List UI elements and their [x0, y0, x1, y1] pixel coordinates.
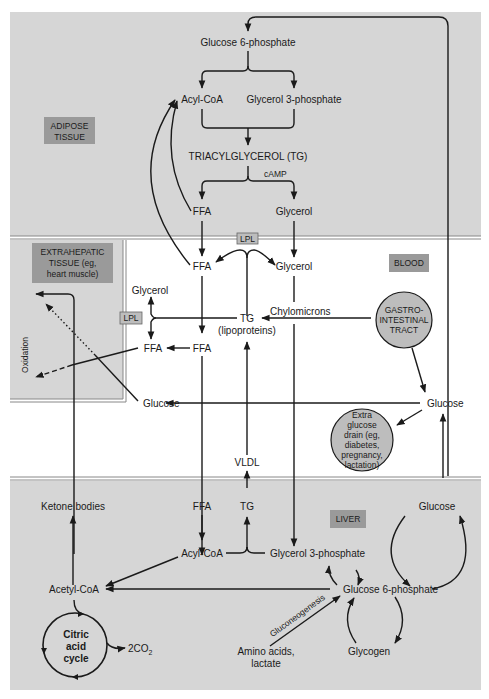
camp-label: cAMP — [264, 169, 287, 179]
drain-line3: drain (eg, — [344, 430, 380, 440]
gi-line3: TRACT — [390, 325, 418, 335]
svg-text:LIVER: LIVER — [336, 514, 361, 524]
acetyl-coa: Acetyl-CoA — [49, 584, 99, 595]
adipose-acyl-coa: Acyl-CoA — [181, 94, 223, 105]
extrahepatic-tissue-label: EXTRAHEPATIC TISSUE (eg, heart muscle) — [32, 243, 113, 283]
chylomicrons-label: Chylomicrons — [270, 306, 331, 317]
liver-tg: TG — [240, 501, 254, 512]
adipose-triacylglycerol: TRIACYLGLYCEROL (TG) — [189, 151, 308, 162]
drain-line2: glucose — [347, 420, 377, 430]
citric-line2: acid — [66, 641, 86, 652]
drain-line1: Extra — [352, 410, 372, 420]
svg-text:LPL: LPL — [123, 313, 138, 323]
blood-label: BLOOD — [389, 254, 429, 272]
blood-glycerol: Glycerol — [276, 261, 313, 272]
amino-acids-line2: lactate — [251, 658, 281, 669]
blood-ffa-mid: FFA — [193, 343, 212, 354]
drain-line4: diabetes, — [345, 440, 380, 450]
adipose-tissue-label: ADIPOSE TISSUE — [44, 117, 95, 144]
extrahepatic-label-line2: TISSUE (eg, — [49, 258, 97, 268]
liver-acyl-coa: Acyl-CoA — [181, 548, 223, 559]
extrahepatic-glycerol: Glycerol — [132, 285, 169, 296]
adipose-glycerol-3-phosphate: Glycerol 3-phosphate — [246, 94, 341, 105]
glycogen: Glycogen — [348, 646, 390, 657]
blood-ffa: FFA — [193, 261, 212, 272]
liver-glucose-6-phosphate: Glucose 6-phosphate — [343, 584, 439, 595]
gi-line2: INTESTINAL — [379, 315, 428, 325]
oxidation-label: Oxidation — [20, 337, 30, 373]
blood-tg: TG — [240, 313, 254, 324]
extrahepatic-label-line3: heart muscle) — [47, 269, 99, 279]
citric-line1: Citric — [63, 629, 89, 640]
amino-acids-line1: Amino acids, — [237, 646, 294, 657]
adipose-label-line2: TISSUE — [54, 132, 85, 142]
citric-line3: cycle — [63, 653, 88, 664]
drain-line6: lactation) — [345, 460, 380, 470]
adipose-glycerol: Glycerol — [276, 206, 313, 217]
lpl-extrahepatic: LPL — [120, 312, 142, 324]
svg-text:BLOOD: BLOOD — [394, 258, 424, 268]
adipose-label-line1: ADIPOSE — [51, 121, 89, 131]
adipose-glucose-6-phosphate: Glucose 6-phosphate — [200, 37, 296, 48]
lpl-top-label: LPL — [240, 234, 255, 244]
extrahepatic-label-line1: EXTRAHEPATIC — [41, 247, 105, 257]
gi-line1: GASTRO- — [385, 305, 424, 315]
lipoproteins-label: (lipoproteins) — [218, 325, 276, 336]
liver-ffa: FFA — [193, 501, 212, 512]
extra-glucose-drain-node: Extra glucose drain (eg, diabetes, pregn… — [331, 409, 393, 471]
liver-glucose: Glucose — [419, 501, 456, 512]
vldl-label: VLDL — [234, 457, 259, 468]
adipose-ffa: FFA — [193, 206, 212, 217]
liver-glycerol-3-phosphate: Glycerol 3-phosphate — [270, 548, 365, 559]
gastrointestinal-tract-node: GASTRO- INTESTINAL TRACT — [376, 292, 432, 348]
blood-glucose: Glucose — [427, 398, 464, 409]
extrahepatic-glucose: Glucose — [143, 398, 180, 409]
liver-label: LIVER — [330, 510, 366, 528]
drain-line5: pregnancy, — [341, 450, 382, 460]
metabolism-diagram: ADIPOSE TISSUE EXTRAHEPATIC TISSUE (eg, … — [0, 0, 489, 699]
ketone-bodies: Ketone bodies — [41, 501, 105, 512]
extrahepatic-ffa: FFA — [144, 343, 163, 354]
